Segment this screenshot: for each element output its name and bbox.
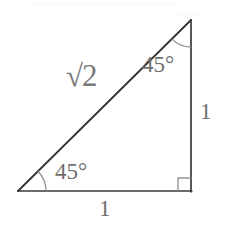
radicand-value: 2 — [82, 58, 98, 93]
angle-arc-top — [172, 39, 191, 47]
vertical-leg-length-label: 1 — [200, 100, 212, 123]
right-angle-marker — [178, 178, 191, 191]
triangle-diagram-svg — [0, 0, 227, 227]
horizontal-leg-length-label: 1 — [99, 197, 111, 220]
triangle-figure: √2 45° 45° 1 1 — [0, 0, 227, 227]
angle-label-bottom-left: 45° — [55, 160, 87, 183]
radical-sign-icon: √ — [66, 58, 82, 93]
hypotenuse-length-label: √2 — [66, 60, 98, 91]
hypotenuse-line — [18, 20, 191, 191]
angle-arc-bottom-left — [38, 171, 46, 191]
radical-expression: √2 — [66, 60, 98, 91]
angle-label-top: 45° — [142, 53, 174, 76]
